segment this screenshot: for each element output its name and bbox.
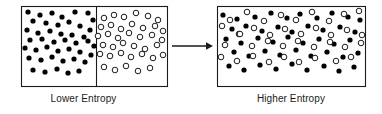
filled-particle bbox=[259, 28, 264, 33]
open-particle bbox=[115, 35, 121, 41]
filled-particle bbox=[49, 10, 54, 15]
filled-particle bbox=[340, 54, 345, 59]
open-particle bbox=[131, 43, 137, 49]
open-particle bbox=[147, 65, 153, 71]
open-particle bbox=[118, 26, 124, 32]
open-particle bbox=[237, 31, 243, 37]
filled-particle bbox=[54, 66, 59, 71]
filled-particle bbox=[289, 29, 294, 34]
filled-particle bbox=[255, 35, 260, 40]
filled-particle bbox=[37, 12, 42, 17]
open-particle bbox=[295, 38, 301, 44]
entropy-diagram: Lower Entropy Higher Entropy bbox=[0, 0, 382, 114]
open-particle bbox=[227, 17, 233, 23]
open-particle bbox=[333, 58, 339, 64]
filled-particle bbox=[81, 34, 86, 39]
open-particle bbox=[312, 55, 318, 61]
open-particle bbox=[296, 59, 302, 65]
filled-particle bbox=[314, 15, 319, 20]
open-particle bbox=[150, 55, 156, 61]
filled-particle bbox=[262, 48, 267, 53]
open-particle bbox=[160, 52, 166, 58]
filled-particle bbox=[47, 28, 52, 33]
filled-particle bbox=[257, 62, 262, 67]
filled-particle bbox=[33, 47, 38, 52]
filled-particle bbox=[329, 10, 334, 15]
open-particle bbox=[145, 13, 151, 19]
open-particle bbox=[244, 9, 250, 15]
open-particle bbox=[298, 31, 304, 37]
filled-particle bbox=[27, 37, 32, 42]
open-particle bbox=[137, 34, 143, 40]
open-particle bbox=[281, 54, 287, 60]
filled-particle bbox=[229, 26, 234, 31]
filled-particle bbox=[24, 27, 29, 32]
filled-particle bbox=[90, 17, 95, 22]
open-particle bbox=[218, 54, 224, 60]
open-particle bbox=[348, 54, 354, 60]
filled-particle bbox=[241, 67, 246, 72]
open-particle bbox=[120, 40, 126, 46]
filled-particle bbox=[62, 37, 67, 42]
open-particle bbox=[309, 9, 315, 15]
filled-particle bbox=[355, 50, 360, 55]
filled-particle bbox=[88, 52, 93, 57]
open-particle bbox=[234, 58, 240, 64]
filled-particle bbox=[321, 63, 326, 68]
filled-particle bbox=[66, 19, 71, 24]
open-particle bbox=[97, 51, 103, 57]
open-particle bbox=[107, 53, 113, 59]
filled-particle bbox=[49, 54, 54, 59]
filled-particle bbox=[337, 24, 342, 29]
open-particle bbox=[100, 42, 106, 48]
open-particle bbox=[154, 42, 160, 48]
filled-particle bbox=[305, 23, 310, 28]
open-particle bbox=[98, 24, 104, 30]
filled-particle bbox=[51, 39, 56, 44]
filled-particle bbox=[59, 14, 64, 19]
filled-particle bbox=[42, 69, 47, 74]
open-particle bbox=[344, 27, 350, 33]
open-particle bbox=[160, 28, 166, 34]
open-particle bbox=[328, 32, 334, 38]
open-particle bbox=[251, 25, 257, 31]
filled-particle bbox=[352, 29, 357, 34]
open-particle bbox=[358, 40, 364, 46]
filled-particle bbox=[238, 40, 243, 45]
filled-particle bbox=[65, 70, 70, 75]
filled-particle bbox=[82, 59, 87, 64]
filled-particle bbox=[297, 11, 302, 16]
filled-particle bbox=[58, 31, 63, 36]
filled-particle bbox=[91, 43, 96, 48]
filled-particle bbox=[71, 56, 76, 61]
filled-particle bbox=[316, 36, 321, 41]
open-particle bbox=[293, 17, 299, 23]
open-particle bbox=[123, 63, 129, 69]
filled-particle bbox=[22, 45, 27, 50]
filled-particle bbox=[231, 49, 236, 54]
open-particle bbox=[133, 10, 139, 16]
open-particle bbox=[326, 18, 332, 24]
filled-particle bbox=[73, 40, 78, 45]
filled-particle bbox=[243, 23, 248, 28]
open-particle bbox=[108, 22, 114, 28]
filled-particle bbox=[77, 49, 82, 54]
open-particle bbox=[95, 33, 101, 39]
filled-particle bbox=[44, 44, 49, 49]
filled-particle bbox=[30, 18, 35, 23]
lower-entropy-caption: Lower Entropy bbox=[0, 93, 167, 104]
filled-particle bbox=[289, 61, 294, 66]
process-arrow-icon bbox=[172, 42, 213, 50]
open-particle bbox=[139, 51, 145, 57]
open-particle bbox=[250, 53, 256, 59]
open-particle bbox=[101, 15, 107, 21]
open-particle bbox=[111, 12, 117, 18]
open-particle bbox=[313, 25, 319, 31]
filled-particle bbox=[320, 27, 325, 32]
filled-particle bbox=[72, 9, 77, 14]
open-particle bbox=[222, 42, 228, 48]
filled-particle bbox=[43, 20, 48, 25]
filled-particle bbox=[87, 27, 92, 32]
filled-particle bbox=[55, 22, 60, 27]
filled-particle bbox=[69, 32, 74, 37]
